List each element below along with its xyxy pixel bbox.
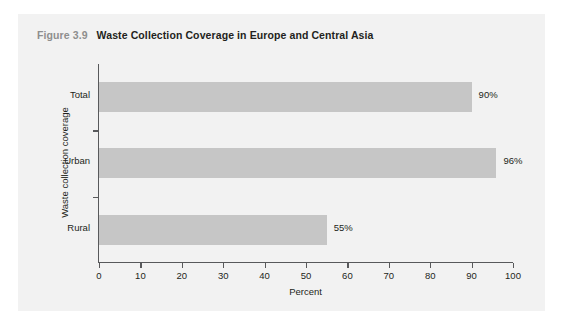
x-axis-tick — [430, 263, 431, 268]
category-label: Total — [0, 89, 90, 100]
x-axis-tick-label: 70 — [369, 270, 409, 281]
x-axis-tick-label: 50 — [286, 270, 326, 281]
bar — [99, 215, 327, 245]
x-axis-tick-label: 80 — [410, 270, 450, 281]
x-axis-tick — [389, 263, 390, 268]
x-axis-tick-label: 10 — [120, 270, 160, 281]
x-axis-tick — [99, 263, 100, 268]
x-axis-tick-label: 90 — [452, 270, 492, 281]
y-axis-tick — [93, 130, 99, 131]
x-axis-tick — [140, 263, 141, 268]
x-axis-tick — [182, 263, 183, 268]
x-axis-tick — [513, 263, 514, 268]
bar-value-label: 96% — [503, 155, 522, 166]
bar — [99, 148, 496, 178]
x-axis-title: Percent — [98, 286, 513, 297]
bar-value-label: 90% — [479, 89, 498, 100]
y-axis-tick — [93, 197, 99, 198]
x-axis-tick-label: 30 — [203, 270, 243, 281]
x-axis-tick — [306, 263, 307, 268]
bar-row: Urban96% — [18, 130, 545, 196]
bar-row: Rural55% — [18, 197, 545, 263]
x-axis-tick-label: 40 — [245, 270, 285, 281]
bar-row: Total90% — [18, 64, 545, 130]
category-label: Rural — [0, 222, 90, 233]
category-label: Urban — [0, 155, 90, 166]
bar-value-label: 55% — [334, 222, 353, 233]
figure-panel: Figure 3.9Waste Collection Coverage in E… — [18, 14, 545, 311]
bar-chart-plot-area: Waste collection coverage Percent Total9… — [18, 14, 545, 311]
x-axis-tick-label: 100 — [493, 270, 533, 281]
x-axis-tick — [347, 263, 348, 268]
x-axis-tick — [265, 263, 266, 268]
x-axis-tick-label: 60 — [327, 270, 367, 281]
x-axis-tick-label: 0 — [79, 270, 119, 281]
bar — [99, 82, 472, 112]
x-axis-tick — [223, 263, 224, 268]
x-axis-tick — [472, 263, 473, 268]
x-axis-tick-label: 20 — [162, 270, 202, 281]
